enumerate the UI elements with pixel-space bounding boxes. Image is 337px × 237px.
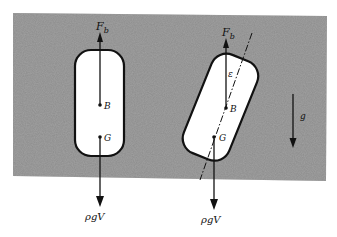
- fluid-region: [13, 13, 327, 181]
- arrow-down-icon: [210, 199, 218, 210]
- tilt-angle-label: ε: [228, 69, 233, 79]
- arrow-down-icon: [96, 196, 104, 207]
- tilted-weight-label: ρgV: [200, 214, 222, 225]
- upright-point-b: [98, 103, 102, 107]
- tilted-b-label: B: [229, 104, 237, 114]
- tilted-point-b: [224, 106, 228, 110]
- upright-weight-label: ρgV: [84, 211, 106, 222]
- upright-g-label: G: [104, 133, 111, 143]
- tilted-g-label: G: [219, 133, 226, 143]
- upright-b-label: B: [103, 101, 111, 111]
- gravity-label: g: [300, 111, 306, 121]
- buoyancy-diagram: Fb B G ρgV Fb ε B G ρgV g: [0, 0, 337, 237]
- upright-point-g: [98, 135, 102, 139]
- tilted-point-g: [212, 135, 216, 139]
